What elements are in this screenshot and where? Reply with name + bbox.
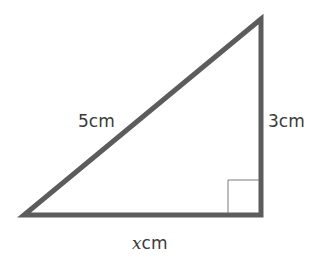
variable-x: x bbox=[132, 233, 142, 253]
vertical-side-label: 3cm bbox=[268, 111, 305, 131]
right-triangle-diagram: 5cm 3cm xcm bbox=[0, 0, 321, 272]
hypotenuse-label: 5cm bbox=[78, 111, 115, 131]
triangle-outline bbox=[24, 19, 261, 215]
horizontal-side-label: xcm bbox=[132, 233, 168, 253]
right-angle-marker bbox=[228, 180, 259, 213]
